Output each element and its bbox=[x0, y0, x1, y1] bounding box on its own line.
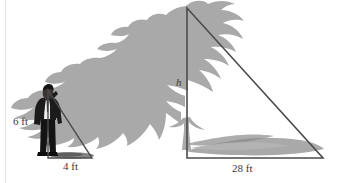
label-tree-shadow: 28 ft bbox=[232, 163, 252, 174]
figure-canvas bbox=[0, 0, 342, 183]
label-man-shadow: 4 ft bbox=[63, 161, 78, 172]
label-tree-height: h bbox=[176, 77, 182, 88]
tree-ground-shadow bbox=[186, 135, 324, 156]
label-man-height: 6 ft bbox=[13, 116, 28, 127]
similar-triangles-figure: 6 ft 4 ft h 28 ft bbox=[0, 0, 342, 183]
